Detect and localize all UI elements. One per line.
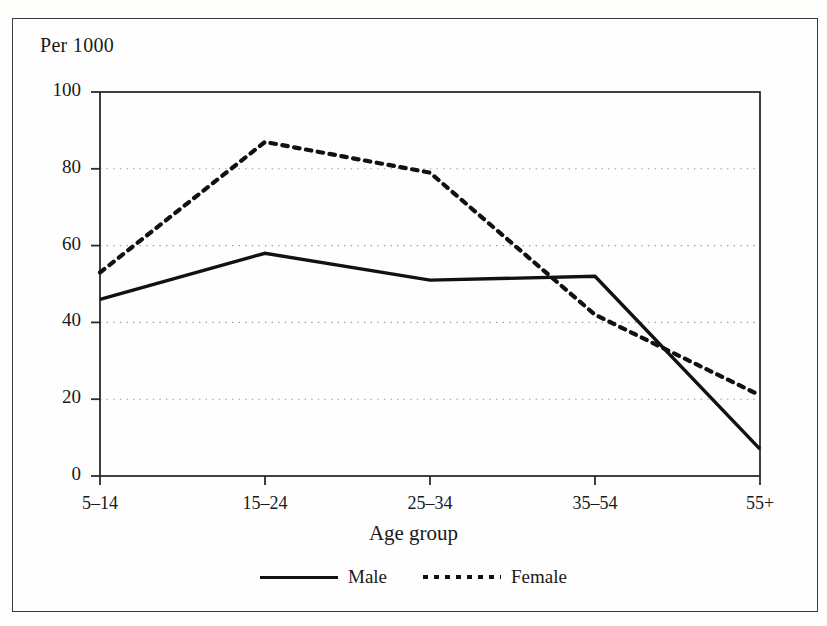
legend-label-male: Male xyxy=(348,566,387,588)
figure-page: Per 1000 020406080100 5–1415–2425–3435–5… xyxy=(0,0,827,626)
x-tick-label: 5–14 xyxy=(45,493,155,514)
data-series-group xyxy=(100,142,760,449)
y-tick-label: 60 xyxy=(21,233,81,255)
x-tick-label: 55+ xyxy=(705,493,815,514)
gridlines-group xyxy=(100,169,760,399)
y-tick-label: 100 xyxy=(21,79,81,101)
x-tick-label: 15–24 xyxy=(210,493,320,514)
x-tick-label: 25–34 xyxy=(375,493,485,514)
legend-line-dotted-icon xyxy=(423,570,501,584)
y-tick-label: 0 xyxy=(21,463,81,485)
plot-frame xyxy=(100,92,760,476)
chart-legend: Male Female xyxy=(0,566,827,588)
y-tick-label: 40 xyxy=(21,309,81,331)
legend-label-female: Female xyxy=(511,566,567,588)
legend-item-male: Male xyxy=(260,566,387,588)
y-tick-label: 20 xyxy=(21,386,81,408)
legend-item-female: Female xyxy=(423,566,567,588)
legend-line-solid-icon xyxy=(260,570,338,584)
x-axis-title: Age group xyxy=(0,521,827,546)
x-tick-label: 35–54 xyxy=(540,493,650,514)
y-tick-label: 80 xyxy=(21,156,81,178)
axis-ticks-group xyxy=(91,92,760,485)
